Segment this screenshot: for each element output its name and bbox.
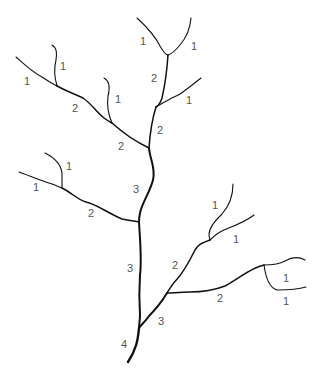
order-label: 1 bbox=[24, 75, 30, 87]
order-label: 1 bbox=[191, 40, 197, 52]
stream-order-4 bbox=[128, 328, 139, 362]
order-label: 2 bbox=[88, 207, 94, 219]
stream-order-labels: 1 1 2 1 2 1 1 2 1 2 3 1 1 2 3 1 1 2 1 1 … bbox=[24, 35, 289, 350]
stream-order-3 bbox=[139, 148, 154, 222]
order-label: 1 bbox=[66, 160, 72, 172]
order-label: 2 bbox=[118, 140, 124, 152]
order-label: 2 bbox=[172, 259, 178, 271]
order-label: 1 bbox=[283, 272, 289, 284]
stream-order-1 bbox=[19, 172, 62, 188]
order-label: 1 bbox=[186, 94, 192, 106]
order-label: 4 bbox=[121, 338, 127, 350]
order-label: 3 bbox=[127, 262, 133, 274]
stream-order-1 bbox=[210, 215, 254, 240]
order-label: 2 bbox=[217, 292, 223, 304]
order-label: 1 bbox=[283, 295, 289, 307]
order-label: 3 bbox=[158, 315, 164, 327]
order-label: 1 bbox=[233, 233, 239, 245]
stream-order-1 bbox=[264, 257, 305, 265]
order-label: 1 bbox=[33, 181, 39, 193]
stream-order-1 bbox=[52, 45, 57, 86]
stream-order-1 bbox=[168, 18, 191, 55]
order-label: 1 bbox=[115, 93, 121, 105]
stream-order-2 bbox=[156, 55, 168, 107]
order-label: 2 bbox=[151, 72, 157, 84]
stream-order-2 bbox=[62, 188, 139, 222]
stream-order-1 bbox=[16, 57, 57, 86]
order-label: 1 bbox=[140, 35, 146, 47]
stream-order-1 bbox=[104, 78, 112, 123]
stream-order-2 bbox=[57, 86, 112, 123]
order-label: 1 bbox=[60, 60, 66, 72]
order-label: 1 bbox=[212, 199, 218, 211]
stream-order-2 bbox=[167, 265, 264, 293]
stream-order-3 bbox=[139, 222, 141, 328]
order-label: 3 bbox=[133, 183, 139, 195]
stream-order-diagram: 1 1 2 1 2 1 1 2 1 2 3 1 1 2 3 1 1 2 1 1 … bbox=[0, 0, 320, 376]
order-label: 2 bbox=[72, 102, 78, 114]
stream-order-2 bbox=[149, 107, 156, 148]
order-label: 2 bbox=[157, 124, 163, 136]
